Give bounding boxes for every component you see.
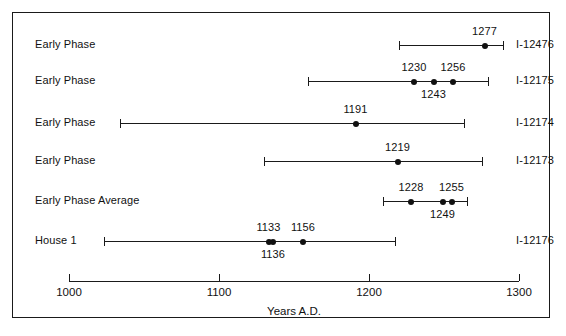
date-point-marker	[270, 239, 276, 245]
row-sample-id-label: I-12176	[516, 234, 554, 246]
date-point-marker	[408, 199, 414, 205]
range-cap-right	[482, 157, 483, 166]
range-cap-right	[488, 77, 489, 86]
range-cap-left	[104, 237, 105, 246]
date-range-bar	[264, 161, 482, 162]
date-point-value-label: 1228	[399, 181, 424, 193]
date-point-marker	[395, 159, 401, 165]
date-point-marker	[411, 79, 417, 85]
date-point-marker	[431, 79, 437, 85]
axis-tick-mark	[519, 274, 520, 281]
row-left-label: House 1	[35, 234, 77, 246]
date-point-marker	[353, 121, 359, 127]
date-range-bar	[308, 81, 488, 82]
date-point-marker	[450, 79, 456, 85]
row-left-label: Early Phase	[35, 154, 95, 166]
range-cap-left	[120, 119, 121, 128]
range-cap-right	[464, 119, 465, 128]
row-sample-id-label: I-12173	[516, 154, 554, 166]
date-point-value-label: 1243	[421, 88, 446, 100]
row-left-label: Early Phase	[35, 116, 95, 128]
row-sample-id-label: I-12175	[516, 74, 554, 86]
axis-tick-mark	[69, 274, 70, 281]
date-point-value-label: 1256	[441, 61, 466, 73]
range-cap-right	[503, 41, 504, 50]
row-left-label: Early Phase	[35, 38, 95, 50]
range-cap-right	[395, 237, 396, 246]
date-point-value-label: 1133	[256, 221, 280, 233]
date-point-value-label: 1219	[385, 141, 410, 153]
date-point-marker	[449, 199, 455, 205]
date-point-value-label: 1249	[430, 208, 455, 220]
chart-frame: Early PhaseI-124761277Early PhaseI-12175…	[12, 12, 550, 318]
date-range-bar	[120, 123, 464, 124]
date-point-value-label: 1191	[343, 103, 367, 115]
axis-title-label: Years A.D.	[267, 305, 321, 317]
axis-line	[69, 281, 519, 282]
date-point-value-label: 1136	[261, 248, 285, 260]
date-point-value-label: 1230	[402, 61, 427, 73]
axis-tick-label: 1000	[56, 286, 82, 298]
date-point-value-label: 1255	[439, 181, 464, 193]
axis-tick-mark	[369, 274, 370, 281]
axis-tick-label: 1100	[207, 286, 232, 298]
date-point-marker	[300, 239, 306, 245]
range-cap-left	[383, 197, 384, 206]
range-cap-right	[467, 197, 468, 206]
range-cap-left	[399, 41, 400, 50]
row-sample-id-label: I-12174	[516, 116, 554, 128]
axis-tick-label: 1200	[356, 286, 382, 298]
radiocarbon-date-chart: Early PhaseI-124761277Early PhaseI-12175…	[0, 0, 566, 336]
date-range-bar	[104, 241, 395, 242]
date-point-value-label: 1277	[472, 25, 497, 37]
row-left-label: Early Phase	[35, 74, 95, 86]
axis-tick-mark	[219, 274, 220, 281]
row-left-label: Early Phase Average	[35, 194, 139, 206]
row-sample-id-label: I-12476	[516, 38, 554, 50]
range-cap-left	[308, 77, 309, 86]
date-point-marker	[482, 43, 488, 49]
range-cap-left	[264, 157, 265, 166]
date-point-value-label: 1156	[291, 221, 315, 233]
date-point-marker	[440, 199, 446, 205]
axis-tick-label: 1300	[506, 286, 532, 298]
